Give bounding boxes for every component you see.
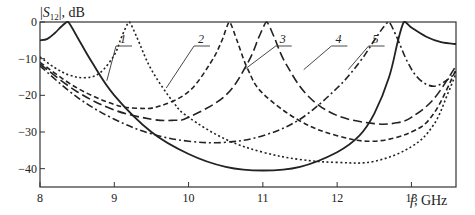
curve-label-2: 2 [198,32,204,46]
leader-line-4 [304,46,348,70]
leader-line-2 [166,46,210,88]
curves [40,22,456,171]
x-tick-label: 11 [257,191,269,205]
curve-label-5: 5 [373,32,379,46]
curve-label-3: 3 [279,32,286,46]
y-tick-label: −40 [18,162,37,176]
curve-4 [40,22,456,124]
x-axis-title: f, GHz [410,193,447,208]
x-tick-label: 12 [331,191,343,205]
leader-line-3 [244,46,291,70]
curve-2 [40,22,456,163]
y-axis-title: |S12|, dB [40,5,85,22]
curve-label-1: 1 [120,32,126,46]
leader-line-1 [107,46,132,81]
s12-frequency-chart: 89101112130−10−20−30−40 12345 |S12|, dB … [0,0,475,215]
y-tick-label: −10 [18,52,37,66]
x-tick-label: 8 [37,191,43,205]
y-tick-label: −20 [18,88,37,102]
curve-label-4: 4 [335,32,341,46]
x-tick-label: 9 [111,191,117,205]
leader-line-5 [348,46,384,70]
axes: 89101112130−10−20−30−40 [18,15,456,205]
curve-5 [40,22,456,143]
y-tick-label: −30 [18,125,37,139]
x-tick-label: 10 [183,191,195,205]
y-tick-label: 0 [31,15,37,29]
curve-labels: 12345 [107,32,385,88]
plot-frame [40,22,456,187]
